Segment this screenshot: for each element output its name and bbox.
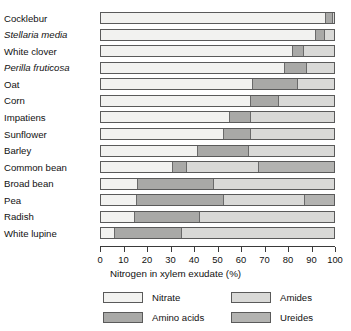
x-axis-tick-label: 40 [189, 254, 199, 265]
bar-segment-amino-acids [284, 63, 306, 73]
bar-row [100, 78, 335, 90]
legend-label: Nitrate [152, 292, 180, 303]
bar-segment-amides [324, 30, 334, 40]
bar-row [100, 227, 335, 239]
x-axis-tick [265, 247, 266, 252]
category-label: Broad bean [0, 178, 91, 189]
bar-row [100, 111, 335, 123]
category-label: Barley [0, 145, 91, 156]
legend-swatch [231, 292, 271, 303]
x-axis-tick-label: 80 [283, 254, 293, 265]
bar-segment-amides [278, 96, 334, 106]
category-label: White lupine [0, 228, 91, 239]
legend-item-amino-acids: Amino acids [103, 311, 204, 324]
bar-segment-amides [199, 212, 334, 222]
bar-row [100, 178, 335, 190]
category-label: Pea [0, 195, 91, 206]
bar-segment-amino-acids [325, 13, 332, 23]
x-axis-tick [171, 247, 172, 252]
bar-segment-nitrate [101, 112, 229, 122]
bar-segment-amino-acids [229, 112, 250, 122]
bar-segment-nitrate [101, 46, 292, 56]
x-axis-tick [124, 247, 125, 252]
bar-segment-amino-acids [136, 195, 223, 205]
bar-segment-amides [250, 112, 334, 122]
plot-area [100, 12, 335, 244]
chart-legend: NitrateAmidesAmino acidsUreides [103, 291, 351, 329]
bar-segment-nitrate [101, 162, 172, 172]
category-label-text: Barley [0, 145, 91, 156]
bar-row [100, 12, 335, 24]
bar-segment-nitrate [101, 13, 325, 23]
bar-segment-ureides [258, 162, 334, 172]
bar-row [100, 145, 335, 157]
bar-segment-amides [306, 63, 334, 73]
x-axis-tick [288, 247, 289, 252]
x-axis-tick-label: 20 [142, 254, 152, 265]
category-label-text: Impatiens [0, 112, 91, 123]
x-axis-tick-label: 60 [236, 254, 246, 265]
bar-segment-nitrate [101, 79, 252, 89]
bar-segment-amides [213, 179, 334, 189]
bar-row [100, 211, 335, 223]
legend-label: Amides [280, 292, 312, 303]
x-axis-title: Nitrogen in xylem exudate (%) [0, 268, 351, 279]
category-label-text: Cocklebur [0, 13, 91, 24]
category-label-text: Perilla fruticosa [0, 62, 91, 73]
category-label: Impatiens [0, 112, 91, 123]
bar-segment-amides [186, 162, 258, 172]
category-label-text: Stellaria media [0, 29, 91, 40]
bar-segment-nitrate [101, 63, 284, 73]
bar-segment-amides [303, 46, 334, 56]
bar-segment-amino-acids [172, 162, 186, 172]
legend-label: Amino acids [152, 312, 204, 323]
category-label-text: Broad bean [0, 178, 91, 189]
bar-row [100, 29, 335, 41]
legend-label: Ureides [280, 312, 313, 323]
legend-swatch [231, 312, 271, 323]
bar-row [100, 128, 335, 140]
category-label-text: Pea [0, 195, 91, 206]
bar-segment-amides [297, 79, 334, 89]
nitrogen-xylem-exudate-chart: CockleburStellaria mediaWhite cloverPeri… [0, 0, 351, 331]
category-label: Common bean [0, 162, 91, 173]
category-label: Radish [0, 211, 91, 222]
bar-segment-amides [248, 146, 334, 156]
bar-segment-amino-acids [137, 179, 213, 189]
legend-swatch [103, 312, 143, 323]
bar-segment-amides [332, 13, 334, 23]
bar-segment-amides [250, 129, 334, 139]
x-axis-tick-label: 90 [306, 254, 316, 265]
category-label: Perilla fruticosa [0, 62, 91, 73]
x-axis-tick-label: 70 [259, 254, 269, 265]
category-label: Oat [0, 79, 91, 90]
x-axis-tick [312, 247, 313, 252]
x-axis-tick [100, 247, 101, 252]
category-label-text: Sunflower [0, 129, 91, 140]
category-label-text: White lupine [0, 228, 91, 239]
bar-segment-nitrate [101, 96, 250, 106]
x-axis-tick [147, 247, 148, 252]
category-label: White clover [0, 46, 91, 57]
category-label: Cocklebur [0, 13, 91, 24]
bar-segment-amino-acids [114, 228, 182, 238]
bar-row [100, 161, 335, 173]
category-label: Stellaria media [0, 29, 91, 40]
bar-segment-amino-acids [252, 79, 296, 89]
bar-segment-amides [223, 195, 303, 205]
category-label-text: Corn [0, 95, 91, 106]
legend-swatch [103, 292, 143, 303]
legend-item-nitrate: Nitrate [103, 291, 180, 304]
x-axis-tick [194, 247, 195, 252]
x-axis-tick-label: 100 [327, 254, 343, 265]
bar-segment-nitrate [101, 212, 134, 222]
category-label: Corn [0, 95, 91, 106]
bar-row [100, 194, 335, 206]
bar-segment-amino-acids [315, 30, 323, 40]
bar-segment-amino-acids [197, 146, 248, 156]
bar-row [100, 95, 335, 107]
category-label-text: White clover [0, 46, 91, 57]
bar-segment-nitrate [101, 179, 137, 189]
bar-row [100, 45, 335, 57]
category-label-text: Radish [0, 211, 91, 222]
